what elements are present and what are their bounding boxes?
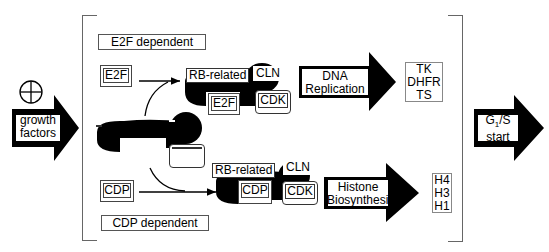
histone-biosynthesis-label: Histone Biosynthesis <box>327 181 389 207</box>
central-cln-label <box>169 120 175 122</box>
cdp-complex-cdk: CDK <box>282 181 318 205</box>
cdp-dependent-title: CDP dependent <box>101 215 209 231</box>
cdp-complex-bound-cdp: CDP <box>238 180 272 204</box>
e2f-complex-bound-e2f: E2F <box>208 93 240 115</box>
e2f-complex-rb-label: RB-related <box>186 68 249 83</box>
central-rb-label <box>96 125 102 127</box>
g1s-start-label: G1/S start <box>478 114 518 144</box>
central-cdk <box>169 144 205 168</box>
cdp-target-genes: H4 H3 H1 <box>432 173 452 213</box>
cdp-complex-cln-label: CLN <box>283 160 313 175</box>
e2f-complex-cdk: CDK <box>255 90 291 114</box>
free-cdp-box: CDP <box>100 180 134 202</box>
dna-replication-label: DNA Replication <box>303 70 367 96</box>
pathway-arrows <box>0 0 549 252</box>
e2f-complex-cln-label: CLN <box>253 66 283 81</box>
cdp-complex-rb-label: RB-related <box>212 163 275 178</box>
e2f-target-genes: TK DHFR TS <box>405 62 443 102</box>
